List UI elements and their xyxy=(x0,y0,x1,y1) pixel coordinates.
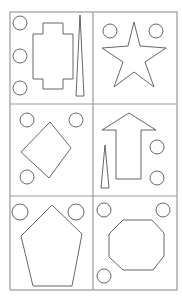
circle-icon xyxy=(69,113,83,127)
panel-3 xyxy=(20,113,83,184)
circle-icon xyxy=(13,81,27,95)
circle-icon xyxy=(13,49,27,63)
up-arrow-shape xyxy=(102,113,156,179)
circle-icon xyxy=(13,16,27,30)
circle-icon xyxy=(68,204,84,220)
tall-triangle-shape xyxy=(101,145,109,188)
diamond-shape xyxy=(21,122,71,178)
circle-icon xyxy=(149,24,163,38)
circle-icon xyxy=(97,269,111,283)
panel-2 xyxy=(102,22,166,87)
tall-triangle-shape xyxy=(76,15,84,96)
panel-6 xyxy=(97,203,170,283)
circle-icon xyxy=(97,203,111,217)
panel-4 xyxy=(101,113,164,188)
circle-icon xyxy=(20,170,34,184)
panel-5 xyxy=(12,204,84,286)
circle-icon xyxy=(156,203,170,217)
circle-icon xyxy=(12,204,28,220)
star-shape xyxy=(102,22,166,87)
shape-grid xyxy=(0,0,182,298)
panel-1 xyxy=(13,15,84,96)
circle-icon xyxy=(20,113,34,127)
pentagon-shape xyxy=(21,205,82,286)
cross-rectangle-shape xyxy=(33,23,73,89)
circle-icon xyxy=(103,24,117,38)
octagon-shape xyxy=(109,220,164,270)
circle-icon xyxy=(150,171,164,185)
circle-icon xyxy=(150,140,164,154)
